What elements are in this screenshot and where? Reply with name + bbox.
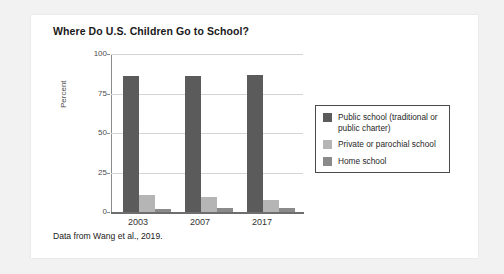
x-tick-label-2017: 2017 xyxy=(235,217,289,227)
y-tick-mark-0 xyxy=(107,212,110,213)
legend-item-public: Public school (traditional or public cha… xyxy=(323,112,442,133)
y-tick-label-75: 75 xyxy=(77,90,107,98)
legend-label-home: Home school xyxy=(338,156,386,167)
y-tick-mark-50 xyxy=(107,133,110,134)
x-tick-label-2003: 2003 xyxy=(111,217,165,227)
y-axis-title: Percent xyxy=(59,80,68,108)
plot-area xyxy=(111,54,303,212)
legend-item-home: Home school xyxy=(323,156,442,167)
bar-group-2017 xyxy=(247,54,301,212)
figure-caption: Data from Wang et al., 2019. xyxy=(53,231,163,241)
legend-label-public: Public school (traditional or public cha… xyxy=(338,112,442,133)
bar-2017-home xyxy=(279,208,295,212)
y-tick-mark-25 xyxy=(107,173,110,174)
bar-group-2003 xyxy=(123,54,177,212)
y-tick-mark-100 xyxy=(107,54,110,55)
bar-group-2007 xyxy=(185,54,239,212)
y-axis-ticks: 100 75 50 25 0 xyxy=(75,54,107,212)
legend-swatch-public-icon xyxy=(323,113,332,122)
bar-2017-private xyxy=(263,200,279,212)
bar-2007-home xyxy=(217,208,233,212)
y-tick-label-25: 25 xyxy=(77,169,107,177)
legend-item-private: Private or parochial school xyxy=(323,139,442,150)
y-tick-label-100: 100 xyxy=(77,50,107,58)
legend-swatch-private-icon xyxy=(323,140,332,149)
legend-swatch-home-icon xyxy=(323,157,332,166)
figure-card: Where Do U.S. Children Go to School? 100… xyxy=(31,15,478,258)
figure-page: Where Do U.S. Children Go to School? 100… xyxy=(0,0,504,274)
legend-label-private: Private or parochial school xyxy=(338,139,436,150)
bar-2003-public xyxy=(123,76,139,212)
bar-2007-public xyxy=(185,76,201,212)
chart-title: Where Do U.S. Children Go to School? xyxy=(53,25,249,37)
x-tick-label-2007: 2007 xyxy=(173,217,227,227)
bar-2007-private xyxy=(201,197,217,212)
y-tick-mark-75 xyxy=(107,94,110,95)
bar-2003-home xyxy=(155,209,171,212)
bar-2003-private xyxy=(139,195,155,212)
x-axis-line xyxy=(111,212,304,214)
y-tick-label-0: 0 xyxy=(77,208,107,216)
bar-2017-public xyxy=(247,75,263,212)
chart-legend: Public school (traditional or public cha… xyxy=(315,105,450,173)
y-tick-label-50: 50 xyxy=(77,129,107,137)
